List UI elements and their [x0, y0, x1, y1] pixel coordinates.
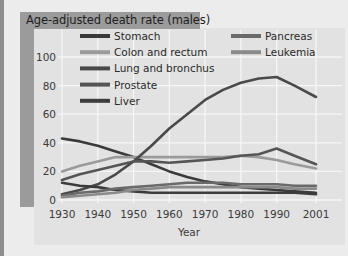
legend-swatch [80, 83, 110, 87]
y-tick-label: 60 [43, 108, 56, 120]
x-axis-label: Year [177, 226, 201, 238]
legend-label: Liver [114, 95, 140, 107]
x-tick-label: 1950 [120, 208, 147, 220]
x-axis-ticks: 19301940195019601970198019902001 [49, 208, 330, 220]
y-axis-ticks: 020406080100 [36, 51, 56, 206]
x-tick-label: 2001 [303, 208, 330, 220]
legend-swatch [231, 34, 261, 38]
x-tick-label: 1970 [192, 208, 219, 220]
series-prostate [62, 149, 316, 181]
legend-item: Pancreas [231, 30, 312, 42]
legend-item: Prostate [80, 79, 157, 91]
legend-item: Stomach [80, 30, 160, 42]
legend-label: Colon and rectum [114, 46, 208, 58]
data-series [62, 77, 316, 197]
x-tick-label: 1980 [228, 208, 255, 220]
x-tick-label: 1940 [84, 208, 111, 220]
legend-swatch [80, 66, 110, 70]
y-tick-label: 80 [43, 80, 56, 92]
legend-swatch [80, 50, 110, 54]
y-tick-label: 0 [49, 194, 56, 206]
legend-item: Liver [80, 95, 140, 107]
legend-label: Stomach [114, 30, 160, 42]
line-chart: 020406080100 193019401950196019701980199… [0, 0, 348, 256]
y-tick-label: 20 [43, 165, 56, 177]
legend: StomachColon and rectumLung and bronchus… [80, 30, 316, 107]
x-tick-label: 1990 [263, 208, 290, 220]
y-tick-label: 40 [43, 137, 56, 149]
legend-swatch [231, 50, 261, 54]
y-tick-label: 100 [36, 51, 56, 63]
legend-label: Pancreas [265, 30, 312, 42]
legend-label: Lung and bronchus [114, 62, 214, 74]
legend-swatch [80, 99, 110, 103]
legend-item: Lung and bronchus [80, 62, 214, 74]
legend-label: Leukemia [265, 46, 316, 58]
x-tick-label: 1960 [156, 208, 183, 220]
x-tick-label: 1930 [49, 208, 76, 220]
legend-swatch [80, 34, 110, 38]
legend-label: Prostate [114, 79, 157, 91]
